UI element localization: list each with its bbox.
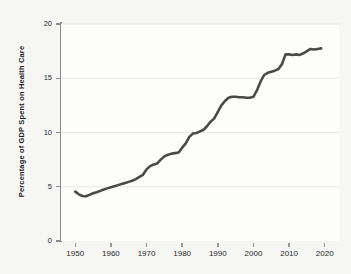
x-tick-label-1960: 1960 xyxy=(94,249,128,258)
x-tick-label-1980: 1980 xyxy=(165,249,199,258)
y-tick-label-20: 20 xyxy=(28,19,52,28)
x-tick-mark-1970 xyxy=(146,243,147,247)
y-tick-label-0: 0 xyxy=(28,236,52,245)
y-axis-title: Percentage of GDP Spent on Health Care xyxy=(17,14,26,229)
y-tick-label-15: 15 xyxy=(28,73,52,82)
x-tick-label-1950: 1950 xyxy=(58,249,92,258)
gridlines-group xyxy=(61,24,339,187)
y-axis-title-container: Percentage of GDP Spent on Health Care xyxy=(0,0,44,274)
y-tick-mark-5 xyxy=(56,186,60,187)
plot-area xyxy=(61,24,339,241)
y-tick-mark-15 xyxy=(56,78,60,79)
y-tick-label-5: 5 xyxy=(28,182,52,191)
x-tick-mark-2020 xyxy=(324,243,325,247)
y-tick-mark-20 xyxy=(56,23,60,24)
x-tick-mark-1960 xyxy=(110,243,111,247)
x-tick-label-2000: 2000 xyxy=(236,249,270,258)
x-tick-label-2010: 2010 xyxy=(272,249,306,258)
x-tick-mark-2010 xyxy=(288,243,289,247)
chart-figure: Percentage of GDP Spent on Health Care 0… xyxy=(0,0,351,274)
x-tick-label-2020: 2020 xyxy=(308,249,342,258)
x-tick-mark-2000 xyxy=(253,243,254,247)
x-tick-label-1970: 1970 xyxy=(130,249,164,258)
line-series-health-care-spending xyxy=(75,48,321,196)
y-tick-mark-10 xyxy=(56,132,60,133)
x-tick-mark-1950 xyxy=(75,243,76,247)
x-tick-mark-1990 xyxy=(217,243,218,247)
x-tick-mark-1980 xyxy=(181,243,182,247)
y-tick-mark-0 xyxy=(56,240,60,241)
x-tick-label-1990: 1990 xyxy=(201,249,235,258)
y-tick-label-10: 10 xyxy=(28,128,52,137)
series-svg xyxy=(61,24,339,241)
